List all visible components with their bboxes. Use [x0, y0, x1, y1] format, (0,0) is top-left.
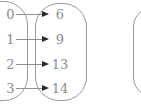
- arrow-shaft: [16, 64, 44, 65]
- arrow-shaft: [16, 39, 44, 40]
- mapping-diagram: 0 6 1 9 2 13 3 14: [0, 0, 141, 107]
- mapping-row: 2 13: [0, 57, 141, 73]
- codomain-value: 14: [48, 81, 72, 97]
- arrow-shaft: [16, 88, 44, 89]
- domain-value: 2: [0, 57, 21, 73]
- mapping-row: 3 14: [0, 81, 141, 97]
- mapping-row: 1 9: [0, 32, 141, 48]
- domain-value: 3: [0, 81, 21, 97]
- codomain-value: 6: [48, 7, 72, 23]
- mapping-row: 0 6: [0, 7, 141, 23]
- domain-value: 0: [0, 7, 21, 23]
- arrow-shaft: [16, 14, 44, 15]
- codomain-value: 13: [48, 57, 72, 73]
- codomain-value: 9: [48, 32, 72, 48]
- domain-value: 1: [0, 32, 21, 48]
